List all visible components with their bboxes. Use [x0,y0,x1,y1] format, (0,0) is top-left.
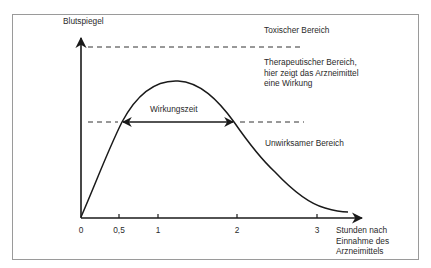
therapeutic-region-label: Therapeutischer Bereich, hier zeigt das … [264,57,359,89]
y-axis-label: Blutspiegel [63,16,104,27]
toxic-region-label: Toxischer Bereich [264,25,329,36]
duration-label: Wirkungszeit [150,104,198,115]
x-tick-1: 1 [156,225,161,235]
x-tick-3: 3 [315,225,320,235]
x-tick-0-5: 0,5 [113,225,125,235]
x-axis-label: Stunden nach Einnahme des Arzneimittels [336,225,389,257]
ineffective-region-label: Unwirksamer Bereich [265,138,344,149]
x-tick-2: 2 [235,225,240,235]
x-tick-0: 0 [79,225,84,235]
blood-level-curve [81,81,348,217]
